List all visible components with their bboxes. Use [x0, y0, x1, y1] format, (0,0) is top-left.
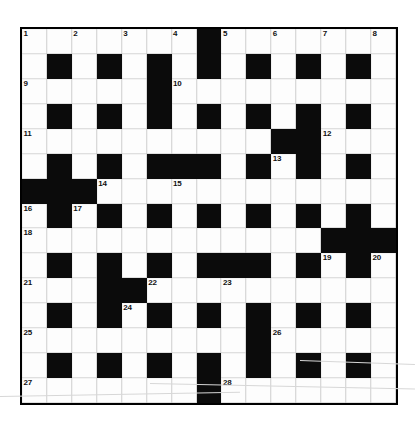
- crossword-cell[interactable]: [122, 204, 147, 229]
- crossword-cell[interactable]: [122, 104, 147, 129]
- crossword-cell[interactable]: 22: [147, 278, 172, 303]
- crossword-cell[interactable]: [72, 104, 97, 129]
- crossword-cell[interactable]: [122, 129, 147, 154]
- crossword-cell[interactable]: [271, 353, 296, 378]
- crossword-cell[interactable]: [296, 328, 321, 353]
- crossword-cell[interactable]: [197, 129, 222, 154]
- crossword-cell[interactable]: [321, 79, 346, 104]
- crossword-cell[interactable]: [246, 29, 271, 54]
- crossword-cell[interactable]: [246, 378, 271, 403]
- crossword-cell[interactable]: [122, 54, 147, 79]
- crossword-cell[interactable]: [147, 29, 172, 54]
- crossword-cell[interactable]: [246, 278, 271, 303]
- crossword-cell[interactable]: [172, 204, 197, 229]
- crossword-cell[interactable]: [122, 253, 147, 278]
- crossword-cell[interactable]: 4: [172, 29, 197, 54]
- crossword-cell[interactable]: [147, 328, 172, 353]
- crossword-cell[interactable]: [122, 353, 147, 378]
- crossword-cell[interactable]: [296, 378, 321, 403]
- crossword-cell[interactable]: 28: [221, 378, 246, 403]
- crossword-cell[interactable]: [221, 328, 246, 353]
- crossword-cell[interactable]: [346, 278, 371, 303]
- crossword-cell[interactable]: [271, 303, 296, 328]
- crossword-cell[interactable]: [371, 204, 396, 229]
- crossword-cell[interactable]: 7: [321, 29, 346, 54]
- crossword-cell[interactable]: [47, 378, 72, 403]
- crossword-cell[interactable]: [321, 104, 346, 129]
- crossword-cell[interactable]: [47, 328, 72, 353]
- crossword-cell[interactable]: [122, 228, 147, 253]
- crossword-cell[interactable]: [321, 328, 346, 353]
- crossword-cell[interactable]: [22, 253, 47, 278]
- crossword-cell[interactable]: [346, 79, 371, 104]
- crossword-cell[interactable]: 23: [221, 278, 246, 303]
- crossword-cell[interactable]: [221, 228, 246, 253]
- crossword-cell[interactable]: [221, 104, 246, 129]
- crossword-cell[interactable]: [172, 353, 197, 378]
- crossword-cell[interactable]: 24: [122, 303, 147, 328]
- crossword-cell[interactable]: [321, 154, 346, 179]
- crossword-cell[interactable]: [97, 129, 122, 154]
- crossword-cell[interactable]: [72, 378, 97, 403]
- crossword-cell[interactable]: 2: [72, 29, 97, 54]
- crossword-cell[interactable]: [122, 79, 147, 104]
- crossword-cell[interactable]: [346, 328, 371, 353]
- crossword-cell[interactable]: [221, 154, 246, 179]
- crossword-cell[interactable]: [271, 228, 296, 253]
- crossword-cell[interactable]: 5: [221, 29, 246, 54]
- crossword-cell[interactable]: [346, 29, 371, 54]
- crossword-cell[interactable]: [371, 154, 396, 179]
- crossword-cell[interactable]: [371, 104, 396, 129]
- crossword-cell[interactable]: 11: [22, 129, 47, 154]
- crossword-cell[interactable]: [271, 104, 296, 129]
- crossword-cell[interactable]: [97, 79, 122, 104]
- crossword-cell[interactable]: [72, 228, 97, 253]
- crossword-cell[interactable]: [72, 253, 97, 278]
- crossword-cell[interactable]: [321, 353, 346, 378]
- crossword-cell[interactable]: [122, 378, 147, 403]
- crossword-cell[interactable]: [296, 228, 321, 253]
- crossword-cell[interactable]: [122, 328, 147, 353]
- crossword-cell[interactable]: [197, 228, 222, 253]
- crossword-cell[interactable]: [346, 378, 371, 403]
- crossword-cell[interactable]: [147, 228, 172, 253]
- crossword-cell[interactable]: [22, 104, 47, 129]
- crossword-cell[interactable]: [221, 353, 246, 378]
- crossword-cell[interactable]: [321, 303, 346, 328]
- crossword-cell[interactable]: [22, 154, 47, 179]
- crossword-cell[interactable]: 20: [371, 253, 396, 278]
- crossword-cell[interactable]: [47, 79, 72, 104]
- crossword-cell[interactable]: [72, 79, 97, 104]
- crossword-cell[interactable]: 13: [271, 154, 296, 179]
- crossword-cell[interactable]: [321, 278, 346, 303]
- crossword-cell[interactable]: [172, 129, 197, 154]
- crossword-cell[interactable]: [197, 179, 222, 204]
- crossword-cell[interactable]: [72, 328, 97, 353]
- crossword-cell[interactable]: [371, 278, 396, 303]
- crossword-cell[interactable]: [97, 29, 122, 54]
- crossword-cell[interactable]: [47, 129, 72, 154]
- crossword-cell[interactable]: [271, 253, 296, 278]
- crossword-cell[interactable]: [197, 79, 222, 104]
- crossword-cell[interactable]: [296, 278, 321, 303]
- crossword-cell[interactable]: [172, 54, 197, 79]
- crossword-cell[interactable]: [346, 179, 371, 204]
- crossword-cell[interactable]: 15: [172, 179, 197, 204]
- crossword-cell[interactable]: [197, 278, 222, 303]
- crossword-cell[interactable]: [246, 179, 271, 204]
- crossword-cell[interactable]: [371, 129, 396, 154]
- crossword-cell[interactable]: [221, 54, 246, 79]
- crossword-cell[interactable]: [22, 353, 47, 378]
- crossword-cell[interactable]: [221, 179, 246, 204]
- crossword-cell[interactable]: [221, 129, 246, 154]
- crossword-cell[interactable]: [72, 278, 97, 303]
- crossword-cell[interactable]: 21: [22, 278, 47, 303]
- crossword-cell[interactable]: [221, 79, 246, 104]
- crossword-cell[interactable]: [172, 228, 197, 253]
- crossword-cell[interactable]: [271, 79, 296, 104]
- crossword-grid[interactable]: 1234567891011121314151617181920212223242…: [20, 27, 398, 405]
- crossword-cell[interactable]: 25: [22, 328, 47, 353]
- crossword-cell[interactable]: [22, 303, 47, 328]
- crossword-cell[interactable]: [371, 54, 396, 79]
- crossword-cell[interactable]: [72, 129, 97, 154]
